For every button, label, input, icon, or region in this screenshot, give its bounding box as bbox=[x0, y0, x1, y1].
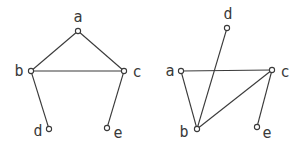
node-label-e: e bbox=[113, 124, 122, 142]
node-e bbox=[254, 124, 259, 129]
edge-a-c bbox=[78, 31, 124, 71]
edge-c-b bbox=[197, 70, 272, 129]
node-label-c: c bbox=[280, 63, 289, 81]
node-label-a: a bbox=[165, 62, 174, 80]
node-label-e: e bbox=[262, 124, 271, 142]
edge-c-e bbox=[107, 71, 124, 128]
node-label-b: b bbox=[14, 62, 23, 80]
node-a bbox=[178, 68, 183, 73]
edge-a-b bbox=[31, 31, 78, 71]
node-label-a: a bbox=[73, 8, 82, 26]
node-c bbox=[269, 67, 274, 72]
edge-c-e bbox=[257, 70, 272, 127]
node-b bbox=[28, 68, 33, 73]
node-d bbox=[46, 126, 51, 131]
node-b bbox=[194, 126, 199, 131]
graph-diagram-canvas: abcde dacbe bbox=[0, 0, 305, 148]
node-label-b: b bbox=[179, 123, 188, 141]
node-e bbox=[104, 125, 109, 130]
node-label-d: d bbox=[223, 5, 232, 23]
edge-a-c bbox=[181, 70, 272, 71]
graph-right: dacbe bbox=[165, 5, 289, 142]
node-d bbox=[224, 25, 229, 30]
edge-b-d bbox=[31, 71, 49, 129]
node-label-d: d bbox=[33, 122, 42, 140]
graph-left: abcde bbox=[14, 8, 141, 142]
node-a bbox=[75, 28, 80, 33]
node-label-c: c bbox=[132, 63, 141, 81]
edge-d-b bbox=[197, 28, 227, 129]
edge-a-b bbox=[181, 71, 197, 129]
node-c bbox=[121, 68, 126, 73]
